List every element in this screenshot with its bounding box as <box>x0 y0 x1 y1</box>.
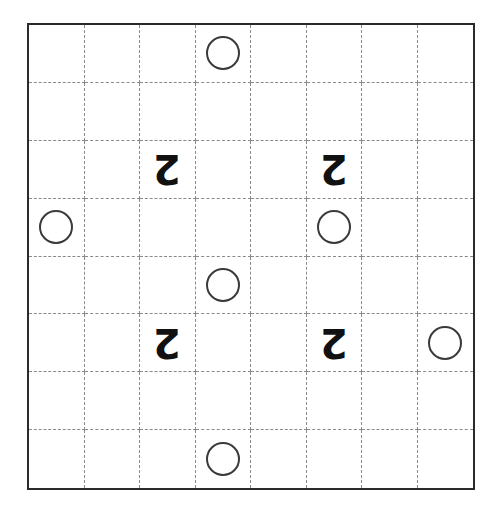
clue-number: 2 <box>320 149 348 189</box>
grid-cell-r0-c3[interactable] <box>196 25 252 83</box>
grid-cell-r1-c2[interactable] <box>140 83 196 141</box>
grid-cell-r6-c4[interactable] <box>251 372 307 430</box>
grid-cell-r5-c4[interactable] <box>251 314 307 372</box>
grid-cell-r6-c2[interactable] <box>140 372 196 430</box>
grid-cell-r1-c1[interactable] <box>85 83 141 141</box>
circle-icon <box>206 442 240 476</box>
grid-cell-r2-c0[interactable] <box>29 141 85 199</box>
grid-cell-r4-c6[interactable] <box>362 257 418 315</box>
grid-cell-r7-c1[interactable] <box>85 430 141 488</box>
grid-cell-r4-c0[interactable] <box>29 257 85 315</box>
grid-cell-r7-c7[interactable] <box>418 430 474 488</box>
grid-cell-r0-c2[interactable] <box>140 25 196 83</box>
grid-cell-r2-c2[interactable]: 2 <box>140 141 196 199</box>
grid-cell-r3-c2[interactable] <box>140 199 196 257</box>
grid-cell-r5-c5[interactable]: 2 <box>307 314 363 372</box>
circle-icon <box>206 268 240 302</box>
grid-cell-r7-c5[interactable] <box>307 430 363 488</box>
grid-cell-r7-c6[interactable] <box>362 430 418 488</box>
grid-cell-r6-c1[interactable] <box>85 372 141 430</box>
grid-cell-r2-c1[interactable] <box>85 141 141 199</box>
grid-cell-r6-c0[interactable] <box>29 372 85 430</box>
grid-cell-r2-c4[interactable] <box>251 141 307 199</box>
grid-cell-r7-c4[interactable] <box>251 430 307 488</box>
grid-cell-r3-c0[interactable] <box>29 199 85 257</box>
grid-cell-r2-c5[interactable]: 2 <box>307 141 363 199</box>
grid-cell-r0-c4[interactable] <box>251 25 307 83</box>
grid-cell-r5-c0[interactable] <box>29 314 85 372</box>
grid-cell-r6-c3[interactable] <box>196 372 252 430</box>
grid-cell-r6-c5[interactable] <box>307 372 363 430</box>
grid-cell-r2-c7[interactable] <box>418 141 474 199</box>
grid-cell-r4-c5[interactable] <box>307 257 363 315</box>
grid-cell-r0-c1[interactable] <box>85 25 141 83</box>
grid-cell-r4-c4[interactable] <box>251 257 307 315</box>
grid-cell-r6-c6[interactable] <box>362 372 418 430</box>
grid-cell-r0-c7[interactable] <box>418 25 474 83</box>
grid-cell-r3-c7[interactable] <box>418 199 474 257</box>
circle-icon <box>317 210 351 244</box>
grid-cell-r4-c1[interactable] <box>85 257 141 315</box>
grid-cell-r1-c5[interactable] <box>307 83 363 141</box>
grid-cell-r1-c6[interactable] <box>362 83 418 141</box>
grid-cell-r4-c7[interactable] <box>418 257 474 315</box>
grid-cell-r1-c4[interactable] <box>251 83 307 141</box>
grid-cell-r1-c3[interactable] <box>196 83 252 141</box>
grid-cell-r3-c3[interactable] <box>196 199 252 257</box>
clue-number: 2 <box>153 149 181 189</box>
grid-cell-r2-c6[interactable] <box>362 141 418 199</box>
grid-cell-r5-c2[interactable]: 2 <box>140 314 196 372</box>
puzzle-grid: 2222 <box>27 23 475 490</box>
circle-icon <box>39 210 73 244</box>
grid-cell-r7-c0[interactable] <box>29 430 85 488</box>
grid-cell-r0-c6[interactable] <box>362 25 418 83</box>
grid-cell-r1-c0[interactable] <box>29 83 85 141</box>
grid-cell-r5-c1[interactable] <box>85 314 141 372</box>
grid-cell-r2-c3[interactable] <box>196 141 252 199</box>
grid-cell-r4-c2[interactable] <box>140 257 196 315</box>
grid-cell-r1-c7[interactable] <box>418 83 474 141</box>
grid-cell-r3-c5[interactable] <box>307 199 363 257</box>
grid-cell-r7-c2[interactable] <box>140 430 196 488</box>
grid-cell-r0-c5[interactable] <box>307 25 363 83</box>
grid-cell-r3-c6[interactable] <box>362 199 418 257</box>
grid-cell-r5-c3[interactable] <box>196 314 252 372</box>
grid-cell-r4-c3[interactable] <box>196 257 252 315</box>
grid-cell-r3-c4[interactable] <box>251 199 307 257</box>
grid-cell-r3-c1[interactable] <box>85 199 141 257</box>
clue-number: 2 <box>320 323 348 363</box>
grid-cell-r5-c6[interactable] <box>362 314 418 372</box>
circle-icon <box>206 36 240 70</box>
grid-cell-r7-c3[interactable] <box>196 430 252 488</box>
grid-cell-r6-c7[interactable] <box>418 372 474 430</box>
clue-number: 2 <box>153 323 181 363</box>
circle-icon <box>428 326 462 360</box>
grid-cell-r0-c0[interactable] <box>29 25 85 83</box>
grid-cell-r5-c7[interactable] <box>418 314 474 372</box>
